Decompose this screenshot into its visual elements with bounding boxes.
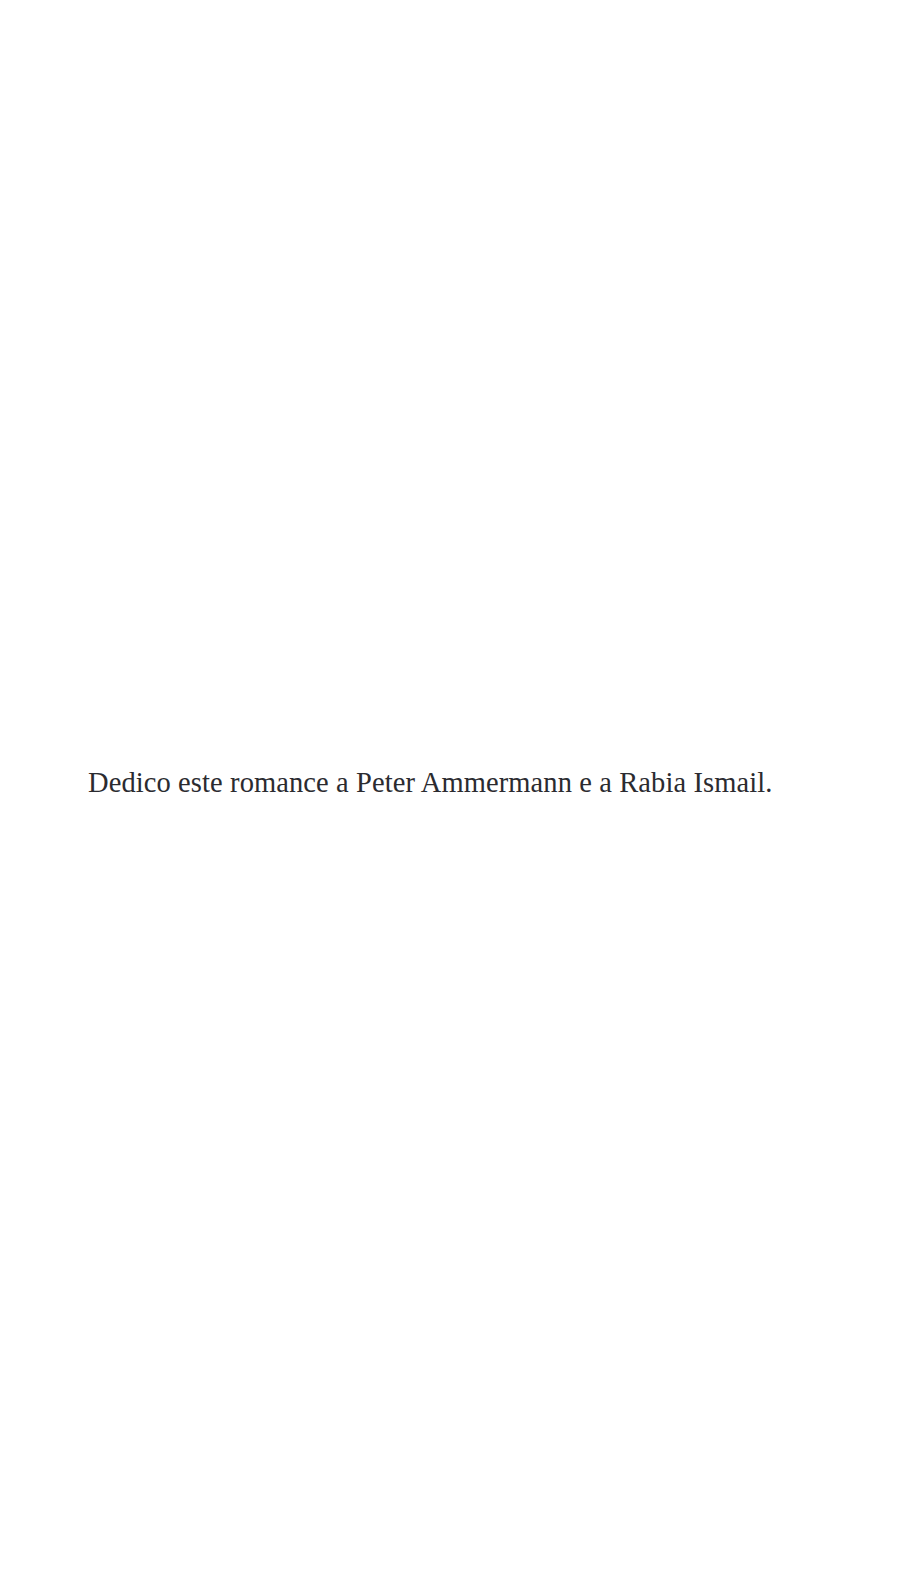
document-page: Dedico este romance a Peter Ammermann e … — [0, 0, 913, 1586]
page-top-whitespace — [0, 0, 913, 776]
page-bottom-whitespace — [0, 810, 913, 1586]
dedication-text: Dedico este romance a Peter Ammermann e … — [88, 769, 825, 798]
dedication-block: Dedico este romance a Peter Ammermann e … — [88, 769, 825, 798]
